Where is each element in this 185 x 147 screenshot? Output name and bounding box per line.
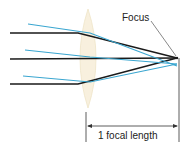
blue-ray-top <box>28 24 177 66</box>
focus-leader-line <box>151 21 176 56</box>
black-ray-middle <box>10 58 177 59</box>
arrowhead-right-icon <box>173 124 178 128</box>
focal-length-label: 1 focal length <box>98 130 158 141</box>
arrowhead-left-icon <box>87 124 92 128</box>
focus-point <box>176 57 178 59</box>
lens-diagram <box>0 0 185 147</box>
blue-ray-bottom <box>23 64 177 82</box>
focus-label: Focus <box>122 12 149 23</box>
